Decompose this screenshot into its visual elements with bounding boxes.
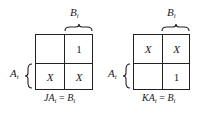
equation-label: KAi = Bi	[142, 92, 175, 105]
cell-r0c0	[36, 35, 64, 63]
column-brace-icon	[161, 24, 191, 32]
row-brace-icon	[25, 63, 33, 89]
column-brace-icon	[64, 24, 94, 32]
row-brace-icon	[123, 63, 131, 89]
cell-r1c1: X	[65, 64, 93, 89]
row-label-a: Ai	[10, 67, 19, 81]
map-grid: 1 X X	[35, 34, 93, 90]
cell-r1c1: 1	[163, 64, 190, 89]
column-label-b: Bi	[70, 6, 79, 20]
column-label-b: Bi	[167, 6, 176, 20]
cell-r1c0: X	[36, 64, 64, 89]
cell-r1c0	[134, 64, 162, 89]
cell-r0c1: 1	[65, 35, 93, 63]
row-label-a: Ai	[108, 67, 117, 81]
cell-r0c1: X	[163, 35, 190, 63]
equation-label: JAi = Bi	[44, 92, 75, 105]
cell-r0c0: X	[134, 35, 162, 63]
map-grid: X X 1	[133, 34, 190, 90]
